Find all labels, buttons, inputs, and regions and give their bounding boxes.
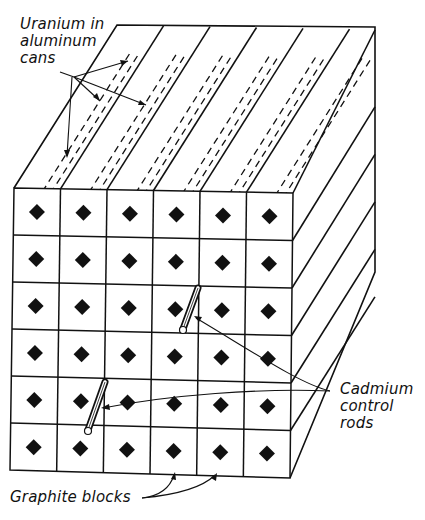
cadmium-label-line-1: Cadmium: [340, 381, 414, 398]
cadmium-label-line-2: control: [340, 398, 414, 415]
reactor-block-drawing: [0, 0, 425, 520]
cadmium-label: Cadmium control rods: [340, 381, 414, 432]
uranium-label: Uranium in aluminum cans: [20, 16, 105, 67]
uranium-label-line-2: aluminum: [20, 33, 105, 50]
cadmium-label-line-3: rods: [340, 415, 414, 432]
uranium-label-line-1: Uranium in: [20, 16, 105, 33]
front-face-grid: [10, 188, 293, 478]
graphite-label: Graphite blocks: [10, 489, 131, 506]
uranium-label-line-3: cans: [20, 50, 105, 67]
